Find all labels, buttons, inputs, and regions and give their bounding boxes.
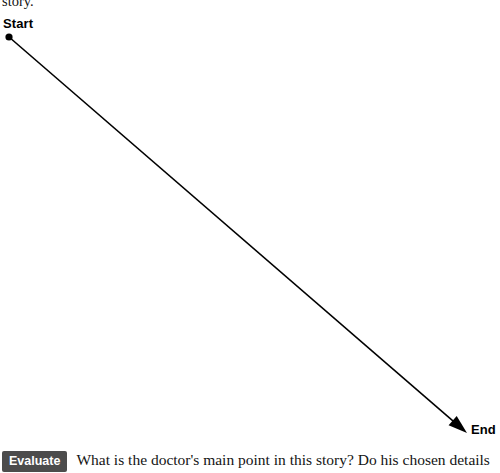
- story-arc-arrow: [0, 0, 500, 473]
- evaluate-tag-badge: Evaluate: [2, 451, 67, 472]
- arrow-group: [5, 33, 467, 433]
- arrow-line: [9, 37, 455, 423]
- end-arrowhead-marker: [449, 416, 467, 433]
- start-dot-marker: [5, 33, 12, 40]
- worksheet-page: { "page": { "background_color": "#ffffff…: [0, 0, 500, 473]
- end-label: End: [471, 422, 496, 437]
- clipped-text-above: story.: [2, 0, 34, 9]
- start-label: Start: [3, 16, 33, 31]
- prompt-question-text: What is the doctor's main point in this …: [76, 450, 500, 469]
- prompt-row: Evaluate What is the doctor's main point…: [0, 449, 500, 472]
